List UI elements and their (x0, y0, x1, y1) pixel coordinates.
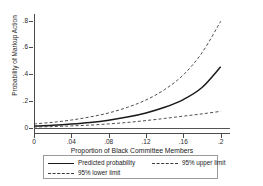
legend-key-solid-icon (48, 163, 74, 164)
y-axis-title: Probability of Markup Action (11, 0, 18, 116)
legend-key-dashed-icon (152, 163, 178, 164)
legend-item-upper-limit: 95% upper limit (152, 158, 225, 168)
series-line (34, 67, 221, 126)
x-axis-title: Proportion of Black Committee Members (34, 147, 230, 154)
legend-label: 95% lower limit (78, 170, 120, 177)
legend-item-lower-limit: 95% lower limit (48, 168, 120, 178)
legend-label: 95% upper limit (182, 160, 225, 167)
legend-item-predicted-probability: Predicted probability (48, 158, 135, 168)
chart-figure: 0.2.4.6.8 0.04.08.12.16.2 Probability of… (0, 0, 263, 186)
series-line (34, 21, 221, 124)
legend: Predicted probability 95% upper limit 95… (43, 155, 218, 179)
legend-key-dashed-icon (48, 173, 74, 174)
legend-label: Predicted probability (78, 160, 135, 167)
